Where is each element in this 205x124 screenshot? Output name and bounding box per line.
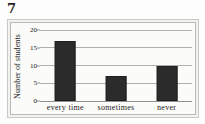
x-axis-label: never — [157, 103, 176, 113]
y-axis-title: Number of students — [12, 27, 23, 105]
x-axis-labels-group: every timesometimesnever — [40, 103, 192, 115]
figure-container: 7 Number of students 05101520 every time… — [0, 0, 205, 124]
y-axis-tick-label: 0 — [34, 98, 38, 105]
bar — [55, 41, 76, 101]
bar — [156, 66, 177, 102]
plot-area: 05101520 — [40, 30, 192, 101]
bar-slot — [40, 30, 91, 101]
bar — [105, 76, 126, 101]
chart-frame-inner: Number of students 05101520 every timeso… — [10, 22, 196, 115]
figure-number-label: 7 — [7, 1, 16, 16]
x-axis-label: every time — [47, 103, 84, 113]
y-axis-tick-label: 5 — [34, 80, 38, 87]
y-axis-tick-label: 15 — [30, 44, 37, 51]
y-axis-title-text: Number of students — [13, 34, 22, 99]
bar-slot — [91, 30, 142, 101]
chart-frame-outer: Number of students 05101520 every timeso… — [7, 19, 199, 118]
y-axis-tick-label: 10 — [30, 62, 37, 69]
bar-slot — [141, 30, 192, 101]
y-axis-tick-label: 20 — [30, 27, 37, 34]
bars-group — [40, 30, 192, 101]
x-axis-label: sometimes — [98, 103, 135, 113]
bar-chart: Number of students 05101520 every timeso… — [11, 23, 195, 114]
